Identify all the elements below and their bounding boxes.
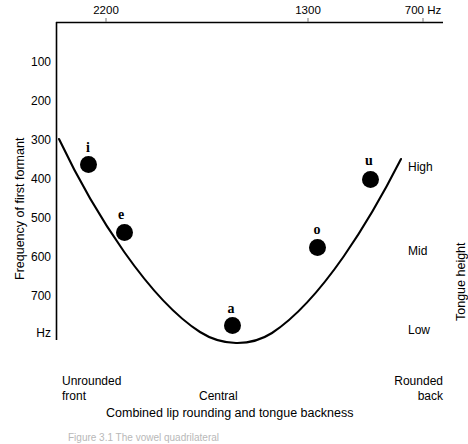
y-tick-label-700: 700	[17, 290, 51, 303]
top-tick-label-1300: 1300	[278, 4, 338, 17]
vowel-label-i: i	[78, 141, 98, 155]
x-axis-title: Combined lip rounding and tongue backnes…	[106, 406, 353, 421]
figure-caption: Figure 3.1 The vowel quadrilateral	[68, 432, 219, 444]
x-category-central: Central	[199, 389, 238, 404]
vowel-label-u: u	[359, 154, 379, 168]
vowel-dot-u	[362, 171, 379, 188]
top-tick-label-2200: 2200	[76, 4, 136, 17]
x-category-rounded-back: Rounded back	[330, 374, 443, 403]
y-tick-label-200: 200	[17, 95, 51, 108]
y-axis-unit-label: Hz	[17, 327, 51, 340]
tongue-height-label-high: High	[408, 161, 433, 174]
top-axis-ticks	[106, 18, 423, 22]
vowel-dot-i	[80, 156, 97, 173]
y-tick-label-100: 100	[17, 56, 51, 69]
x-category-rounded-line1: Rounded	[330, 374, 443, 389]
vowel-label-o: o	[307, 223, 327, 237]
x-category-rounded-line2: back	[330, 389, 443, 404]
vowel-dot-o	[309, 239, 326, 256]
x-category-central-line1: Central	[199, 389, 238, 404]
top-tick-label-700hz: 700 Hz	[387, 4, 459, 17]
tongue-height-label-low: Low	[408, 324, 430, 337]
vowel-label-e: e	[111, 208, 131, 222]
vowel-dot-e	[116, 224, 133, 241]
x-category-unrounded-line1: Unrounded	[62, 374, 121, 389]
vowel-dot-a	[224, 317, 241, 334]
y-axis-title: Frequency of first formant	[13, 138, 27, 280]
right-axis-title: Tongue height	[454, 242, 468, 321]
vowel-label-a: a	[221, 302, 241, 316]
x-category-unrounded-line2: front	[62, 389, 121, 404]
tongue-height-label-mid: Mid	[408, 245, 427, 258]
x-category-unrounded-front: Unrounded front	[62, 374, 121, 403]
